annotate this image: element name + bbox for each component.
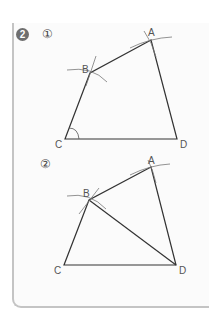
figure-1-labels: A B C D xyxy=(55,27,187,150)
quadrilateral-abcd-1 xyxy=(65,40,177,139)
quadrilateral-abcd-2 xyxy=(64,167,176,265)
figure-2 xyxy=(64,160,176,265)
angle-mark-c xyxy=(69,128,79,139)
quadrilateral-diagram: A B C D A B C D xyxy=(0,0,209,320)
label-a-1: A xyxy=(148,27,155,38)
label-d-2: D xyxy=(179,265,186,276)
label-b-1: B xyxy=(82,64,89,75)
diagonal-bd xyxy=(89,200,176,265)
label-c-1: C xyxy=(55,139,62,150)
label-a-2: A xyxy=(148,155,155,166)
label-c-2: C xyxy=(54,265,61,276)
label-d-1: D xyxy=(180,139,187,150)
figure-1 xyxy=(65,31,177,139)
label-b-2: B xyxy=(83,188,90,199)
